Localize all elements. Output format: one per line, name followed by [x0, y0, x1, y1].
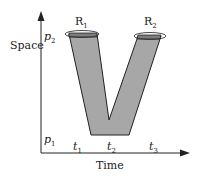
- v-band: [69, 33, 161, 135]
- tick-t1: t1: [73, 140, 82, 155]
- y-axis-label: Space: [10, 39, 44, 52]
- tick-t2: t2: [107, 140, 116, 155]
- tick-p2: p2: [44, 30, 56, 45]
- y-axis-arrow-icon: [38, 11, 45, 21]
- region-r2-label: R2: [144, 15, 157, 30]
- tick-p1: p1: [44, 133, 56, 148]
- space-time-diagram: Space Time p2 p1 t1 t2 t3 R1 R2: [0, 0, 200, 181]
- x-axis-arrow-icon: [180, 150, 190, 157]
- region-r1-label: R1: [75, 15, 88, 30]
- v-shape: [69, 34, 161, 135]
- x-axis-label: Time: [96, 159, 124, 172]
- tick-t3: t3: [149, 140, 158, 155]
